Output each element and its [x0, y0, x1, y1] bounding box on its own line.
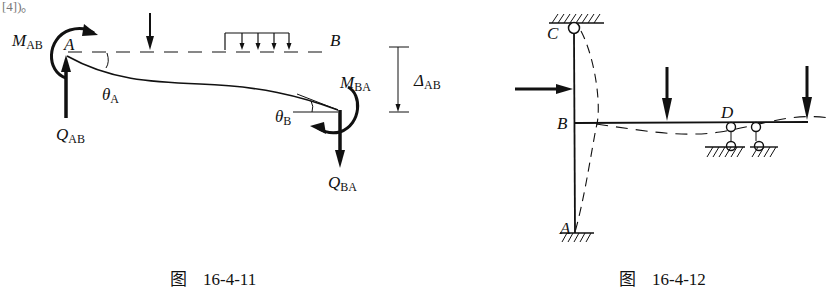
theta-b-tangent-line: [297, 94, 338, 110]
label-node-c: C: [547, 24, 559, 43]
label-q-ab: QAB: [56, 125, 85, 146]
label-node-b: B: [557, 114, 568, 133]
label-delta-ab: ΔAB: [413, 71, 441, 92]
column-deflected-shape: [575, 31, 598, 232]
label-q-ba: QBA: [328, 173, 357, 194]
shear-ba-arrow: [335, 110, 345, 168]
moment-ba-arrow: [310, 87, 358, 134]
shear-ab-arrow: [61, 55, 71, 118]
label-node-a: A: [559, 219, 571, 238]
beam-deflected-shape: [596, 117, 830, 135]
moment-ab-arrow: [51, 24, 98, 78]
beam-bd: [575, 122, 808, 123]
theta-a-arc: [106, 53, 108, 68]
label-node-d: D: [720, 103, 734, 122]
vertical-load-arrow-end: [802, 66, 812, 120]
diagram-canvas: [4])。: [0, 0, 839, 293]
label-theta-b: θB: [275, 107, 291, 128]
vertical-load-arrow-mid: [662, 67, 672, 121]
label-m-ba: MBA: [339, 73, 371, 94]
distributed-load: [225, 33, 292, 50]
label-node-a: A: [63, 35, 75, 54]
horizontal-load-arrow: [515, 84, 573, 94]
label-theta-a: θA: [102, 85, 119, 106]
caption-fig-16-4-11: 图16-4-11: [170, 270, 256, 289]
label-node-b: B: [330, 31, 341, 50]
figure-16-4-12: C B A D 图16-4-12: [515, 14, 830, 289]
delta-dimension: [389, 47, 409, 112]
figure-16-4-11: MAB A B θA QAB MBA θB QBA ΔAB 图16-4-11: [11, 13, 441, 289]
theta-b-arc: [311, 101, 313, 112]
header-fragment: [4])。: [2, 0, 35, 14]
column-ac: [574, 33, 575, 233]
label-m-ab: MAB: [11, 31, 43, 52]
caption-fig-16-4-12: 图16-4-12: [619, 270, 706, 289]
point-load-arrow: [146, 13, 154, 50]
